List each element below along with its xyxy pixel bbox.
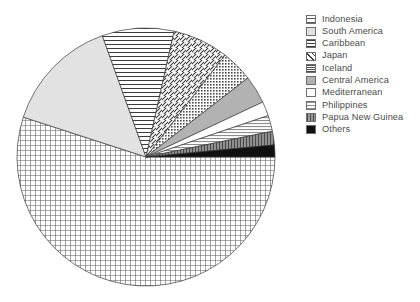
legend-label: Indonesia — [322, 15, 363, 24]
legend-swatch-dense-dots-icon — [306, 64, 316, 73]
pie-slice-group — [17, 28, 275, 286]
legend-label: Philippines — [322, 101, 368, 110]
legend-swatch-solid-light-icon — [306, 27, 316, 36]
legend-label: Caribbean — [322, 39, 365, 48]
legend-item-mediterranean: Mediterranean — [306, 87, 418, 99]
legend-swatch-solid-black-icon — [306, 125, 316, 134]
legend-swatch-fine-horizontal-icon — [306, 101, 316, 110]
legend-item-caribbean: Caribbean — [306, 38, 418, 50]
legend-swatch-diagonal-hatch-icon — [306, 52, 316, 61]
legend-label: Japan — [322, 51, 348, 60]
legend-swatch-solid-gray-icon — [306, 76, 316, 85]
legend-swatch-horizontal-lines-icon — [306, 39, 316, 48]
pie-plot-area — [0, 0, 300, 302]
legend-swatch-solid-white-icon — [306, 88, 316, 97]
legend-item-iceland: Iceland — [306, 62, 418, 74]
legend-item-indonesia: Indonesia — [306, 13, 418, 25]
legend-item-japan: Japan — [306, 50, 418, 62]
legend-swatch-crosshatch-grid-icon — [306, 15, 316, 24]
legend-item-papua-new-guinea: Papua New Guinea — [306, 111, 418, 123]
legend-label: Central America — [322, 76, 389, 85]
legend-label: Mediterranean — [322, 88, 383, 97]
legend-label: Others — [322, 125, 350, 134]
pie-chart-figure: Indonesia South America Caribbean Japan … — [0, 0, 420, 302]
pie-svg — [0, 0, 300, 302]
legend-label: Papua New Guinea — [322, 113, 403, 122]
legend-swatch-vertical-lines-icon — [306, 113, 316, 122]
legend-item-others: Others — [306, 124, 418, 136]
chart-legend: Indonesia South America Caribbean Japan … — [306, 13, 418, 136]
legend-item-philippines: Philippines — [306, 99, 418, 111]
legend-item-central-america: Central America — [306, 74, 418, 86]
legend-item-south-america: South America — [306, 25, 418, 37]
legend-label: Iceland — [322, 64, 352, 73]
legend-label: South America — [322, 27, 383, 36]
